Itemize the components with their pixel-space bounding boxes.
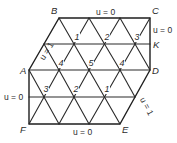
vertex-label-e: E (122, 125, 128, 135)
diag-lower-7 (120, 70, 135, 97)
bc-label-left-lower: u = 0 (4, 93, 23, 102)
vertex-label-a: A (20, 66, 26, 76)
node-number: 3 (43, 85, 49, 94)
node-number: 3 (134, 33, 140, 42)
bc-label-bottom: u = 0 (73, 128, 92, 137)
bc-label-top: u = 0 (96, 8, 115, 17)
node-number: 5 (88, 59, 94, 68)
vertex-label-b: B (51, 6, 57, 16)
node-number: 4 (58, 59, 64, 68)
node-number: 2 (73, 85, 79, 94)
node-number: 1 (74, 33, 80, 42)
bc-label-right-upper: u = 0 (153, 26, 172, 35)
vertex-label-d: D (152, 66, 159, 76)
node-number: 1 (104, 85, 110, 94)
vertex-label-k: K (153, 40, 159, 50)
vertex-label-f: F (20, 125, 26, 135)
node-number: 2 (104, 33, 110, 42)
triangular-mesh-diagram: B C K A D F E u = 0 u = 0 u = 1 u = 0 u … (0, 0, 177, 143)
mesh-lines (0, 0, 177, 143)
node-number: 4 (119, 59, 125, 68)
vertex-label-c: C (152, 6, 159, 16)
